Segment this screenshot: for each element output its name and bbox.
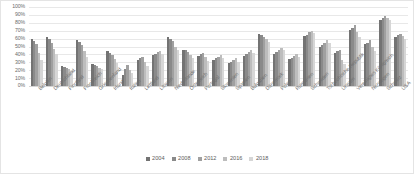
legend-item[interactable]: 2018 — [249, 156, 268, 162]
y-axis-tick-label: 80% — [15, 20, 25, 25]
bar — [313, 33, 315, 86]
bar-group — [347, 7, 362, 86]
y-axis-tick-label: 40% — [15, 52, 25, 57]
y-axis-tick-label: 30% — [15, 60, 25, 65]
legend-item[interactable]: 2004 — [146, 156, 165, 162]
y-axis-tick-label: 70% — [15, 28, 25, 33]
bar-group — [120, 7, 135, 86]
bar-group — [29, 7, 44, 86]
legend-label: 2018 — [256, 156, 268, 162]
legend-swatch-icon — [249, 157, 253, 161]
y-axis-tick-label: 10% — [15, 76, 25, 81]
y-axis-tick-label: 90% — [15, 12, 25, 17]
legend-item[interactable]: 2016 — [223, 156, 242, 162]
bar-group — [211, 7, 226, 86]
legend-swatch-icon — [198, 157, 202, 161]
bar-group — [241, 7, 256, 86]
legend-swatch-icon — [223, 157, 227, 161]
chart-legend: 20042008201220162018 — [1, 156, 413, 162]
bar-group — [165, 7, 180, 86]
bar-group — [135, 7, 150, 86]
bar-group — [393, 7, 408, 86]
y-axis-tick-label: 50% — [15, 44, 25, 49]
bar-group — [287, 7, 302, 86]
legend-item[interactable]: 2008 — [172, 156, 191, 162]
y-axis-tick-label: 100% — [12, 4, 25, 9]
bar-group — [150, 7, 165, 86]
legend-label: 2012 — [204, 156, 216, 162]
legend-item[interactable]: 2012 — [198, 156, 217, 162]
bar-group — [44, 7, 59, 86]
bar — [404, 39, 406, 86]
bar — [268, 42, 270, 86]
legend-label: 2004 — [152, 156, 164, 162]
legend-label: 2016 — [230, 156, 242, 162]
y-axis-tick-label: 20% — [15, 68, 25, 73]
bar-chart: 0%10%20%30%40%50%60%70%80%90%100% Belgie… — [0, 0, 414, 174]
legend-swatch-icon — [172, 157, 176, 161]
legend-label: 2008 — [178, 156, 190, 162]
bar — [328, 43, 330, 86]
y-axis-tick-label: 60% — [15, 36, 25, 41]
legend-swatch-icon — [146, 157, 150, 161]
y-axis: 0%10%20%30%40%50%60%70%80%90%100% — [1, 1, 27, 92]
y-axis-tick-label: 0% — [18, 83, 25, 88]
x-axis: BelgienDeutschlandFinnlandFrankreichGrie… — [29, 87, 408, 145]
